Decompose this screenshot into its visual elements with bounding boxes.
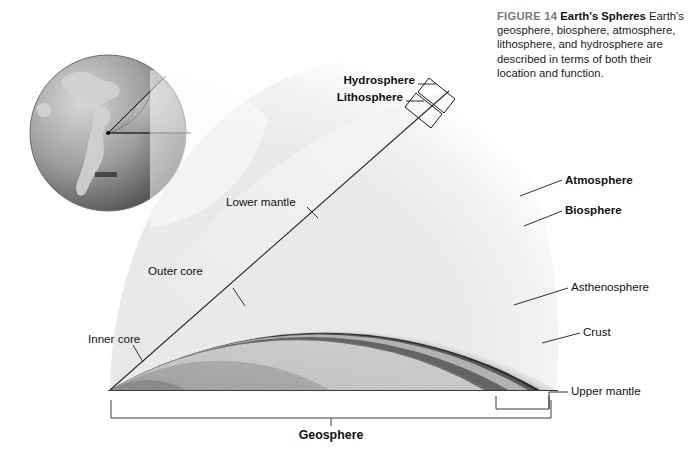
label-outer-core: Outer core xyxy=(148,265,203,277)
figure-title: Earth's Spheres xyxy=(560,10,646,22)
label-inner-core: Inner core xyxy=(88,333,140,345)
label-hydrosphere: Hydrosphere xyxy=(245,74,415,86)
label-lithosphere: Lithosphere xyxy=(233,91,403,103)
label-upper-mantle: Upper mantle xyxy=(571,385,641,397)
figure-caption: FIGURE 14 Earth's Spheres Earth's geosph… xyxy=(497,9,687,80)
label-crust: Crust xyxy=(583,326,611,338)
upper-mantle-bracket xyxy=(496,392,549,409)
label-geosphere: Geosphere xyxy=(231,428,431,442)
label-atmosphere: Atmosphere xyxy=(565,174,633,186)
figure-number: FIGURE 14 xyxy=(497,10,557,22)
figure-canvas: FIGURE 14 Earth's Spheres Earth's geosph… xyxy=(0,0,691,450)
geosphere-bracket xyxy=(111,400,551,426)
label-asthenosphere: Asthenosphere xyxy=(571,281,649,293)
label-lower-mantle: Lower mantle xyxy=(226,196,296,208)
label-biosphere: Biosphere xyxy=(565,204,622,216)
